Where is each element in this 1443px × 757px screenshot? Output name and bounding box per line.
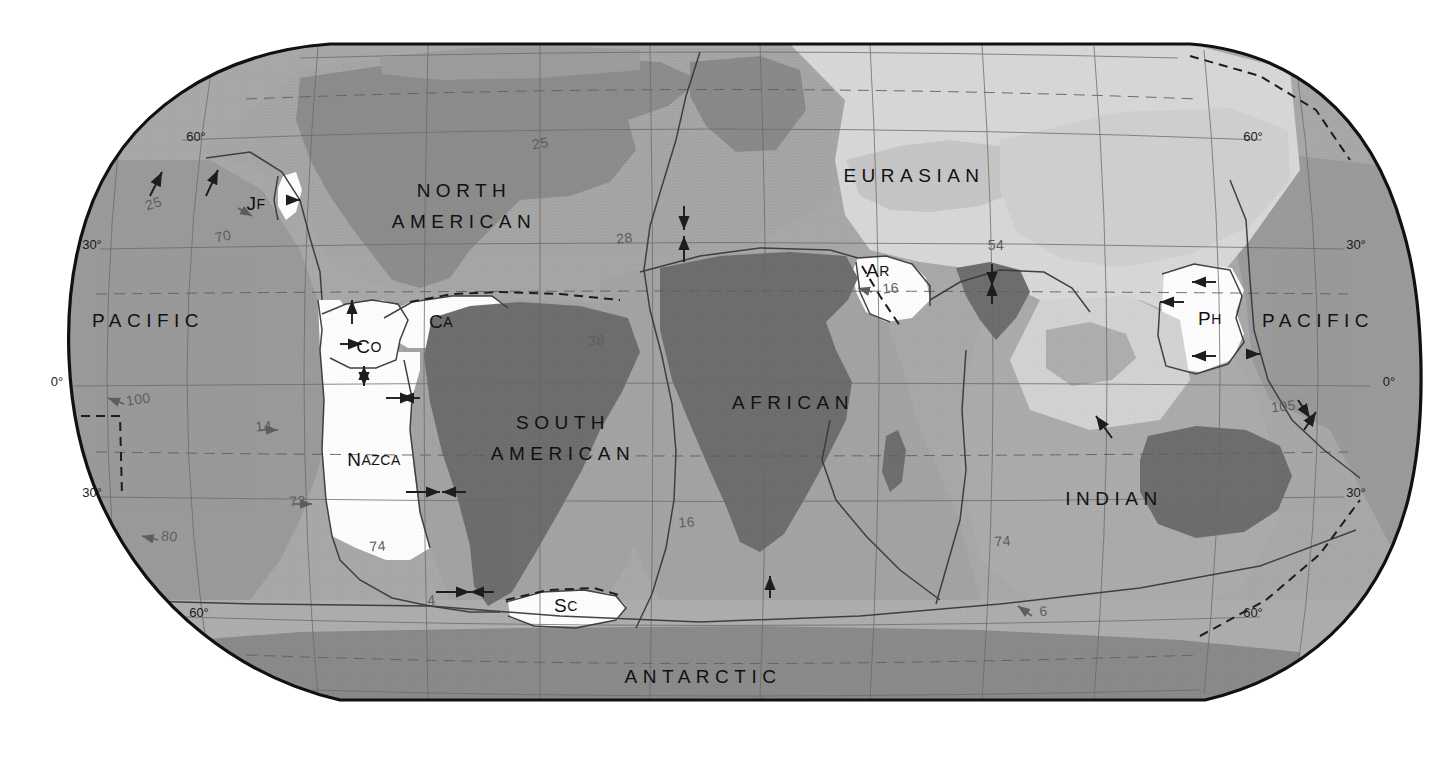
plate-label-caribbean: CA [429,311,453,332]
plate-label-juan_de_fuca: JF [246,193,265,214]
velocity-label: 14 [255,417,273,434]
plate-label-indian: INDIAN [1065,488,1162,509]
graticule-label: 30° [82,485,102,500]
graticule-label: 60° [186,129,206,144]
plate-label-scotia: SC [554,595,578,616]
velocity-label: 74 [369,537,387,554]
velocity-label: 105 [1270,397,1296,416]
velocity-label: 54 [988,237,1005,253]
plate-label-cocos: CO [356,336,382,357]
velocity-label: 28 [615,229,633,247]
graticule-label: 0° [1383,374,1395,389]
plate-label-north_american: NORTH [417,180,512,201]
plate-label-south_american: SOUTH [516,412,610,433]
plate-label-pacific_west: PACIFIC [92,310,204,331]
velocity-label: 25 [531,134,550,152]
tectonic-plate-map: PACIFICPACIFICNORTHAMERICANSOUTHAMERICAN… [0,0,1443,757]
graticule-label: 60° [1243,605,1263,620]
graticule-label: 30° [1346,485,1366,500]
plate-label-nazca: NAZCA [347,449,401,470]
plate-label-north_american2: AMERICAN [392,211,536,232]
velocity-label: 38 [588,331,606,348]
velocity-label: 6 [1039,603,1048,620]
graticule-label: 60° [1243,129,1263,144]
velocity-label: 16 [882,279,900,296]
velocity-label: 70 [213,227,233,246]
graticule-label: 0° [51,374,63,389]
velocity-label: 100 [125,389,152,408]
plate-label-south_american2: AMERICAN [491,443,635,464]
velocity-label: 74 [994,532,1012,549]
plate-label-eurasian: EURASIAN [843,165,984,186]
velocity-label: 73 [289,492,307,509]
graticule-label: 60° [189,605,209,620]
velocity-label: 16 [678,513,696,530]
graticule-label: 30° [82,237,102,252]
world-map-svg: PACIFICPACIFICNORTHAMERICANSOUTHAMERICAN… [0,0,1443,757]
velocity-label: 4 [427,592,436,609]
plate-label-antarctic: ANTARCTIC [625,666,782,687]
graticule-label: 30° [1346,237,1366,252]
plate-label-pacific_east: PACIFIC [1262,310,1374,331]
velocity-label: 80 [160,527,178,545]
plate-label-arabian: AR [866,260,890,281]
plate-label-philippine: PH [1198,308,1222,329]
plate-label-african: AFRICAN [732,392,854,413]
